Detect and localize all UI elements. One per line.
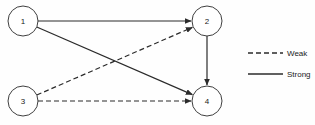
node-1[interactable]: 1 <box>8 6 38 36</box>
node-label-1: 1 <box>21 17 26 26</box>
legend-label-weak: Weak <box>287 49 308 58</box>
graph-diagram: 1234 WeakStrong <box>0 0 315 125</box>
node-3[interactable]: 3 <box>8 86 38 116</box>
node-2[interactable]: 2 <box>192 6 222 36</box>
node-label-3: 3 <box>21 97 26 106</box>
node-4[interactable]: 4 <box>192 86 222 116</box>
legend-item-strong: Strong <box>248 70 311 79</box>
edges-layer <box>37 21 207 101</box>
node-label-2: 2 <box>205 17 210 26</box>
graph-canvas: 1234 WeakStrong <box>0 0 315 125</box>
node-label-4: 4 <box>205 97 210 106</box>
legend-label-strong: Strong <box>287 70 311 79</box>
legend-item-weak: Weak <box>248 49 308 58</box>
legend: WeakStrong <box>248 49 311 79</box>
